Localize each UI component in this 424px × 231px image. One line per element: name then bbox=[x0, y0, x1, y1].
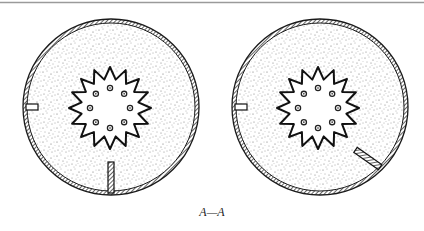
star-bore bbox=[69, 67, 151, 149]
right-section-view bbox=[232, 19, 408, 195]
section-label: A—A bbox=[0, 205, 424, 220]
left-section-view bbox=[23, 19, 199, 195]
star-bore bbox=[277, 67, 359, 149]
side-port bbox=[26, 104, 38, 110]
side-port bbox=[235, 104, 247, 110]
insert-bar bbox=[108, 162, 114, 193]
section-diagram bbox=[0, 0, 424, 231]
